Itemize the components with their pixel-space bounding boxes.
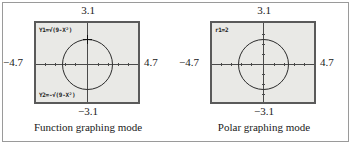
screen-plot-area: r1=2 [212,23,314,102]
plotted-circle [238,39,289,90]
window-xmin-label: −4.7 [179,56,199,68]
panel-polar-graphing: 3.1 −4.7 4.7 −3.1 [176,0,352,147]
equation-r1-label: r1=2 [215,26,228,33]
x-axis-tick [118,63,119,66]
window-xmin-label: −4.7 [3,56,23,68]
calculator-screen-polar: r1=2 [210,21,316,104]
x-axis-tick [45,63,46,66]
window-ymax-label: 3.1 [176,4,352,16]
panel-caption-polar: Polar graphing mode [176,121,352,133]
x-axis-tick [231,63,232,66]
plotted-circle [62,39,113,90]
panel-function-graphing: 3.1 −4.7 4.7 −3.1 Y1=√(9-X²) Y2=-√(9-X²) [0,0,176,147]
trace-cursor-icon [83,35,92,44]
window-xmax-label: 4.7 [320,56,334,68]
equation-y2-label: Y2=-√(9-X²) [39,91,75,98]
panel-caption-function: Function graphing mode [0,121,176,133]
screen-plot-area: Y1=√(9-X²) Y2=-√(9-X²) [36,23,138,102]
y-axis-tick [262,34,265,35]
window-ymin-label: −3.1 [0,105,176,117]
window-ymin-label: −3.1 [176,105,352,117]
calculator-screen-function: Y1=√(9-X²) Y2=-√(9-X²) [34,21,140,104]
x-axis-tick [294,63,295,66]
graphing-modes-figure: 3.1 −4.7 4.7 −3.1 Y1=√(9-X²) Y2=-√(9-X²) [0,0,352,147]
x-axis-tick [55,63,56,66]
x-axis-tick [128,63,129,66]
x-axis-tick [304,63,305,66]
y-axis-tick [262,94,265,95]
window-ymax-label: 3.1 [0,4,176,16]
x-axis-tick [221,63,222,66]
equation-y1-label: Y1=√(9-X²) [39,26,72,33]
window-xmax-label: 4.7 [144,56,158,68]
